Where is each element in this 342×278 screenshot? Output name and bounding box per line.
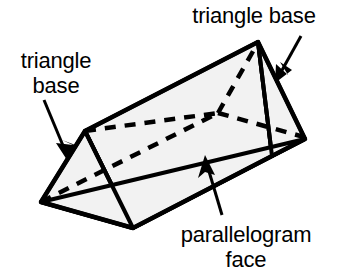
leader-arrow-top-right: [275, 36, 301, 83]
label-parallelogram-face: parallelogram face: [150, 222, 342, 272]
triangular-prism-diagram: triangle base triangle base parallelogra…: [0, 0, 342, 278]
arrow-icon-top-right-head: [275, 62, 292, 83]
label-triangle-base-top: triangle base: [166, 3, 342, 28]
leader-line-left: [44, 100, 64, 148]
label-triangle-base-left: triangle base: [2, 48, 110, 98]
leader-arrow-left: [44, 100, 78, 160]
